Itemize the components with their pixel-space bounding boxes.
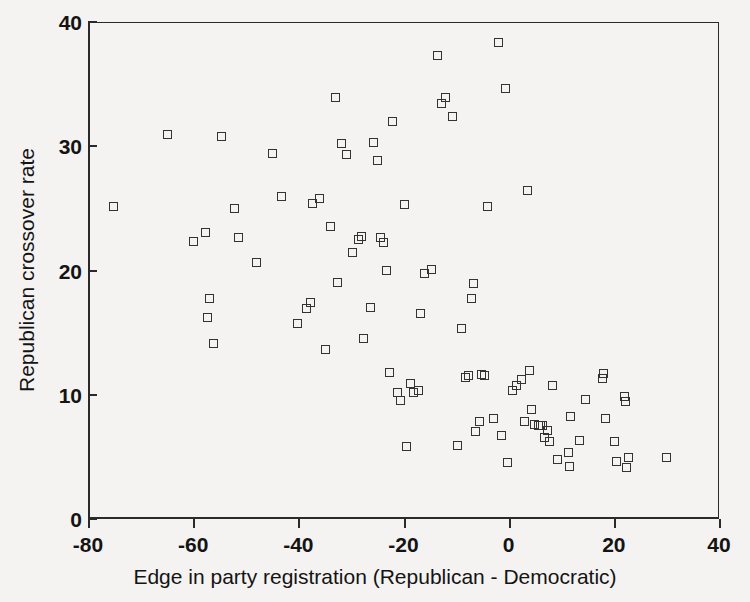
y-axis-tick bbox=[88, 21, 97, 23]
data-point-marker bbox=[414, 386, 423, 395]
data-point-marker bbox=[315, 194, 324, 203]
data-point-marker bbox=[467, 294, 476, 303]
data-point-marker bbox=[448, 112, 457, 121]
data-point-marker bbox=[441, 93, 450, 102]
x-axis-tick-label: 40 bbox=[679, 533, 750, 557]
data-point-marker bbox=[624, 453, 633, 462]
data-point-marker bbox=[464, 371, 473, 380]
x-axis-tick bbox=[614, 519, 616, 528]
data-point-marker bbox=[453, 441, 462, 450]
data-point-marker bbox=[357, 232, 366, 241]
data-point-marker bbox=[396, 396, 405, 405]
y-axis-tick bbox=[88, 145, 97, 147]
data-point-marker bbox=[373, 156, 382, 165]
y-axis-tick bbox=[88, 270, 97, 272]
data-point-marker bbox=[388, 117, 397, 126]
data-point-marker bbox=[565, 462, 574, 471]
data-point-marker bbox=[475, 417, 484, 426]
data-point-marker bbox=[553, 455, 562, 464]
data-point-marker bbox=[575, 436, 584, 445]
x-axis-tick bbox=[509, 519, 511, 528]
data-point-marker bbox=[433, 51, 442, 60]
data-point-marker bbox=[333, 278, 342, 287]
data-point-marker bbox=[326, 222, 335, 231]
data-point-marker bbox=[337, 139, 346, 148]
data-point-marker bbox=[230, 204, 239, 213]
x-axis-title: Edge in party registration (Republican -… bbox=[0, 565, 750, 589]
x-axis-tick-label: -40 bbox=[258, 533, 338, 557]
data-point-marker bbox=[385, 368, 394, 377]
data-point-marker bbox=[205, 294, 214, 303]
data-point-marker bbox=[369, 138, 378, 147]
y-axis-tick-label: 0 bbox=[22, 508, 82, 532]
y-axis-tick-label: 30 bbox=[22, 135, 82, 159]
data-point-marker bbox=[203, 313, 212, 322]
data-point-marker bbox=[427, 265, 436, 274]
x-axis-tick-label: -80 bbox=[48, 533, 128, 557]
y-axis-tick-label: 40 bbox=[22, 11, 82, 35]
data-point-marker bbox=[379, 238, 388, 247]
plot-area bbox=[88, 22, 719, 519]
data-point-marker bbox=[393, 388, 402, 397]
data-point-marker bbox=[523, 186, 532, 195]
data-point-marker bbox=[543, 426, 552, 435]
data-point-marker bbox=[416, 309, 425, 318]
data-point-marker bbox=[400, 200, 409, 209]
data-point-marker bbox=[209, 339, 218, 348]
data-point-marker bbox=[189, 237, 198, 246]
data-point-marker bbox=[457, 324, 466, 333]
x-axis-tick bbox=[88, 519, 90, 528]
x-axis-tick-label: -60 bbox=[153, 533, 233, 557]
data-point-marker bbox=[548, 381, 557, 390]
data-point-marker bbox=[471, 427, 480, 436]
data-point-marker bbox=[566, 412, 575, 421]
y-axis-tick bbox=[88, 394, 97, 396]
data-point-marker bbox=[109, 202, 118, 211]
data-point-marker bbox=[480, 371, 489, 380]
data-point-marker bbox=[359, 334, 368, 343]
data-point-marker bbox=[331, 93, 340, 102]
data-point-marker bbox=[234, 233, 243, 242]
data-point-marker bbox=[610, 437, 619, 446]
y-axis-tick-label: 20 bbox=[22, 260, 82, 284]
data-point-marker bbox=[366, 303, 375, 312]
data-point-marker bbox=[601, 414, 610, 423]
data-point-marker bbox=[483, 202, 492, 211]
data-point-marker bbox=[382, 266, 391, 275]
x-axis-tick bbox=[719, 519, 721, 528]
data-point-marker bbox=[494, 38, 503, 47]
data-point-marker bbox=[342, 150, 351, 159]
data-point-marker bbox=[252, 258, 261, 267]
scatter-plot-figure: Republican crossover rate Edge in party … bbox=[0, 0, 750, 602]
data-point-marker bbox=[503, 458, 512, 467]
data-point-marker bbox=[201, 228, 210, 237]
data-point-marker bbox=[501, 84, 510, 93]
data-point-marker bbox=[525, 366, 534, 375]
data-point-marker bbox=[621, 397, 630, 406]
data-point-marker bbox=[277, 192, 286, 201]
data-point-marker bbox=[163, 130, 172, 139]
data-point-marker bbox=[306, 298, 315, 307]
x-axis-tick bbox=[193, 519, 195, 528]
data-point-marker bbox=[321, 345, 330, 354]
data-point-marker bbox=[402, 442, 411, 451]
x-axis-tick-label: 0 bbox=[469, 533, 549, 557]
data-point-marker bbox=[497, 431, 506, 440]
x-axis-tick bbox=[404, 519, 406, 528]
data-point-marker bbox=[599, 369, 608, 378]
data-point-marker bbox=[564, 448, 573, 457]
data-point-marker bbox=[612, 457, 621, 466]
data-point-marker bbox=[489, 414, 498, 423]
data-point-marker bbox=[469, 279, 478, 288]
data-point-marker bbox=[293, 319, 302, 328]
x-axis-tick-label: -20 bbox=[364, 533, 444, 557]
data-point-marker bbox=[581, 395, 590, 404]
data-point-marker bbox=[268, 149, 277, 158]
data-point-marker bbox=[520, 417, 529, 426]
y-axis-tick-label: 10 bbox=[22, 384, 82, 408]
data-point-marker bbox=[622, 463, 631, 472]
x-axis-tick bbox=[298, 519, 300, 528]
data-point-marker bbox=[217, 132, 226, 141]
data-point-marker bbox=[517, 375, 526, 384]
data-point-marker bbox=[545, 437, 554, 446]
